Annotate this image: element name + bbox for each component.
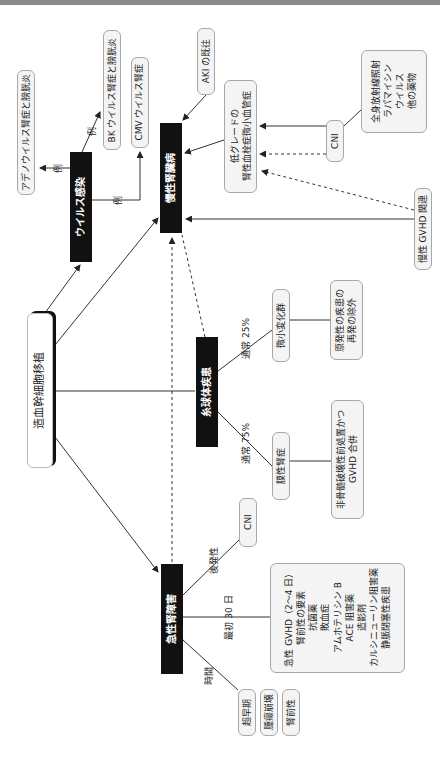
adeno-label: アデノウイルス腎症と膀胱炎 xyxy=(20,74,32,191)
other-causes-box: 全身放射線照射 ラパマイシン ウイルス 他の薬物 xyxy=(361,50,427,133)
other-causes-list: 全身放射線照射 ラパマイシン ウイルス 他の薬物 xyxy=(370,60,419,123)
tumor-lysis-box: 腫瘍崩壊 xyxy=(260,689,278,736)
cni-bottom-box: CNI xyxy=(239,498,257,547)
root-node-hsct: 造血幹細胞移植 xyxy=(27,313,53,468)
aki-label: 急性腎障害 xyxy=(165,594,179,644)
tma-box: 低グレードの 腎性血栓症微小血管症 xyxy=(224,80,257,193)
tma-label: 低グレードの 腎性血栓症微小血管症 xyxy=(228,92,252,182)
membranous-box: 膜性腎症 xyxy=(272,432,290,500)
bk-label: BK ウイルス腎症と膀胱炎 xyxy=(106,38,118,143)
glomerular-label: 糸球体疾患 xyxy=(200,367,214,417)
membranous-note: 非骨髄破壊性前処置かつ GVHD 合併 xyxy=(335,410,359,509)
adeno-box: アデノウイルス腎症と膀胱炎 xyxy=(17,70,35,195)
glomerular-box: 糸球体疾患 xyxy=(196,337,218,447)
ckd-label: 慢性腎臓病 xyxy=(164,153,178,203)
cni-bottom-label: CNI xyxy=(242,515,254,531)
aki-box: 急性腎障害 xyxy=(161,564,183,674)
cmv-box: CMV ウイルス腎症 xyxy=(131,57,149,148)
aki-history-box: AKI の既往 xyxy=(197,28,215,95)
minimal-change-note-box: 原発性の疾患の 再発の除外 xyxy=(330,280,363,360)
ultra-early-label: 超早期 xyxy=(241,699,253,726)
first30-causes-box: 急性 GVHD（2～4 日） 腎前性の要素 抗菌薬 敗血症 アムホテリシン B … xyxy=(270,563,405,673)
viral-infection-box: ウイルス感染 xyxy=(70,152,92,262)
prerenal-label: 腎前性 xyxy=(285,699,297,726)
membranous-label: 膜性腎症 xyxy=(275,448,287,484)
ultra-early-box: 超早期 xyxy=(238,689,256,736)
aki-history-label: AKI の既往 xyxy=(200,39,212,84)
minimal-change-box: 微小変化群 xyxy=(272,289,290,362)
chronic-gvhd-label: 慢性 GVHD 関連 xyxy=(417,195,429,264)
minimal-change-label: 微小変化群 xyxy=(275,303,287,348)
root-label: 造血幹細胞移植 xyxy=(33,352,48,429)
bk-box: BK ウイルス腎症と膀胱炎 xyxy=(103,30,121,150)
prerenal-box: 腎前性 xyxy=(282,689,300,736)
membranous-note-box: 非骨髄破壊性前処置かつ GVHD 合併 xyxy=(331,400,364,519)
chronic-gvhd-box: 慢性 GVHD 関連 xyxy=(414,188,432,270)
viral-infection-label: ウイルス感染 xyxy=(74,177,88,237)
tumor-lysis-label: 腫瘍崩壊 xyxy=(263,694,275,730)
ckd-box: 慢性腎臓病 xyxy=(160,123,182,233)
cni-top-label: CNI xyxy=(329,133,341,149)
first30-causes-list: 急性 GVHD（2～4 日） 腎前性の要素 抗菌薬 敗血症 アムホテリシン B … xyxy=(283,569,392,668)
cni-top-box: CNI xyxy=(326,120,344,162)
minimal-change-note: 原発性の疾患の 再発の除外 xyxy=(334,289,358,352)
cmv-label: CMV ウイルス腎症 xyxy=(134,64,146,141)
